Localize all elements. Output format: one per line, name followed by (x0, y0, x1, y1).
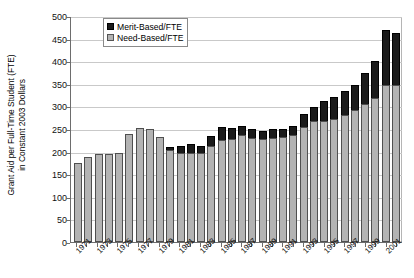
y-axis-tick-label: 50 (7, 215, 67, 225)
bar-group (247, 17, 257, 242)
y-axis-tick-label: 300 (7, 102, 67, 112)
bar-segment-need (125, 134, 133, 242)
bar-segment-need (310, 121, 318, 242)
stacked-bar (289, 126, 297, 242)
bar-group (278, 17, 288, 242)
bar-group (391, 17, 401, 242)
stacked-bar (310, 107, 318, 242)
bar-group (360, 17, 370, 242)
stacked-bar (207, 136, 215, 242)
bar-group (340, 17, 350, 242)
bar-segment-need (238, 135, 246, 242)
bar-segment-merit (218, 127, 226, 140)
legend-swatch-need-icon (107, 34, 114, 41)
bar-segment-need (115, 153, 123, 242)
stacked-bar (382, 30, 390, 242)
bar-segment-need (136, 128, 144, 242)
bar-group (165, 17, 175, 242)
legend-item-merit: Merit-Based/FTE (107, 21, 183, 32)
stacked-bar (197, 146, 205, 242)
bar-group (350, 17, 360, 242)
bar-segment-need (320, 121, 328, 242)
bar-segment-need (197, 153, 205, 242)
stacked-bar (136, 128, 144, 242)
stacked-bar (300, 114, 308, 242)
bar-group (145, 17, 155, 242)
bar-group (73, 17, 83, 242)
bar-segment-need (341, 115, 349, 242)
bar-segment-merit (392, 33, 400, 85)
bar-segment-merit (259, 131, 267, 139)
bar-group (176, 17, 186, 242)
bar-segment-merit (248, 129, 256, 138)
y-axis-tick-label: 150 (7, 170, 67, 180)
stacked-bar (238, 126, 246, 242)
bar-segment-need (74, 163, 82, 242)
bar-segment-merit (187, 144, 195, 152)
bar-segment-merit (310, 107, 318, 121)
bar-group (370, 17, 380, 242)
bar-segment-merit (269, 129, 277, 137)
bar-group (217, 17, 227, 242)
bar-segment-merit (228, 128, 236, 139)
bar-segment-need (259, 139, 267, 242)
bar-group (196, 17, 206, 242)
stacked-bar (166, 147, 174, 242)
stacked-bar (84, 157, 92, 242)
bar-group (83, 17, 93, 242)
chart-legend: Merit-Based/FTE Need-Based/FTE (103, 18, 188, 47)
bar-segment-merit (371, 61, 379, 99)
bar-segment-need (392, 85, 400, 242)
bar-segment-merit (238, 126, 246, 135)
bar-segment-need (351, 110, 359, 242)
stacked-bar (95, 154, 103, 242)
bar-segment-need (177, 153, 185, 242)
stacked-bar (248, 129, 256, 242)
stacked-bar (341, 91, 349, 242)
bar-segment-need (269, 138, 277, 242)
bar-segment-merit (207, 136, 215, 145)
stacked-bar (105, 154, 113, 242)
bar-group (155, 17, 165, 242)
bar-segment-need (84, 157, 92, 242)
bar-group (309, 17, 319, 242)
bar-segment-need (187, 153, 195, 242)
bar-group (329, 17, 339, 242)
stacked-bar (259, 131, 267, 242)
y-axis-tick-label: 0 (7, 238, 67, 248)
legend-label-need: Need-Based/FTE (117, 33, 183, 43)
stacked-bar (392, 33, 400, 242)
bar-group (94, 17, 104, 242)
bar-segment-merit (382, 30, 390, 86)
stacked-bar (177, 146, 185, 242)
stacked-bar (187, 144, 195, 242)
stacked-bar (125, 134, 133, 242)
bar-series-group (72, 17, 402, 242)
bar-segment-need (166, 150, 174, 242)
bar-group (114, 17, 124, 242)
chart-container: Grant Aid per Full-Time Student (FTE) in… (0, 0, 414, 278)
bar-group (237, 17, 247, 242)
stacked-bar (146, 129, 154, 242)
bar-segment-need (289, 135, 297, 242)
bar-segment-need (218, 140, 226, 242)
y-axis-tick-label: 250 (7, 125, 67, 135)
bar-group (288, 17, 298, 242)
bar-segment-merit (279, 129, 287, 137)
bar-segment-need (105, 154, 113, 242)
bar-segment-need (95, 154, 103, 242)
bar-segment-need (371, 98, 379, 242)
stacked-bar (279, 129, 287, 242)
stacked-bar (218, 127, 226, 242)
stacked-bar (269, 129, 277, 242)
stacked-bar (351, 85, 359, 242)
legend-swatch-merit-icon (107, 23, 114, 30)
bar-segment-need (279, 137, 287, 242)
bar-segment-merit (177, 146, 185, 153)
y-axis-tick-label: 350 (7, 80, 67, 90)
stacked-bar (371, 61, 379, 242)
plot-area (70, 17, 402, 243)
bar-group (206, 17, 216, 242)
bar-group (258, 17, 268, 242)
bar-segment-need (330, 119, 338, 242)
